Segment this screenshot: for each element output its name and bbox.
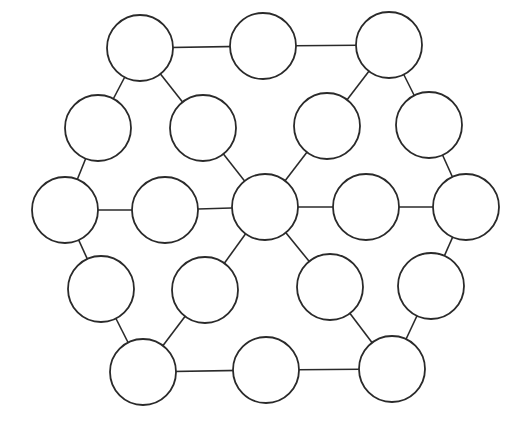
- node-circle-n15: [297, 254, 363, 320]
- node-circle-n10: [232, 174, 298, 240]
- node-circle-n8: [32, 177, 98, 243]
- node-circle-n11: [333, 174, 399, 240]
- node-circle-n2: [230, 13, 296, 79]
- node-circle-n7: [396, 92, 462, 158]
- node-circle-n1: [107, 15, 173, 81]
- node-layer: [32, 12, 499, 405]
- node-circle-n16: [398, 253, 464, 319]
- node-circle-n13: [68, 256, 134, 322]
- node-circle-n3: [356, 12, 422, 78]
- node-circle-n9: [132, 177, 198, 243]
- node-circle-n18: [233, 337, 299, 403]
- diagram-canvas: [0, 0, 532, 433]
- node-circle-n5: [170, 95, 236, 161]
- node-circle-n17: [110, 339, 176, 405]
- node-circle-n14: [172, 257, 238, 323]
- graph-svg: [0, 0, 532, 433]
- node-circle-n19: [359, 336, 425, 402]
- node-circle-n12: [433, 174, 499, 240]
- node-circle-n6: [294, 93, 360, 159]
- node-circle-n4: [65, 95, 131, 161]
